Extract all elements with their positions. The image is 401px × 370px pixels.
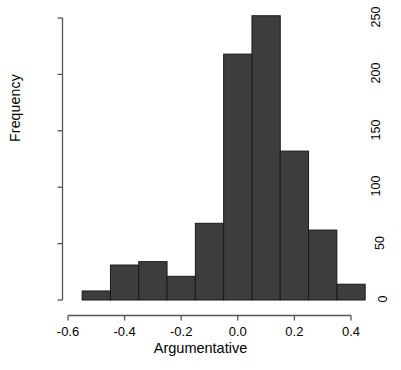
histogram-bar xyxy=(82,291,110,300)
histogram-bar xyxy=(309,230,337,300)
y-tick-label: 200 xyxy=(366,66,387,80)
histogram-bar xyxy=(110,265,138,300)
y-tick-label: 100 xyxy=(366,179,387,193)
y-tick-label: 150 xyxy=(366,123,387,137)
histogram-bar xyxy=(280,151,308,300)
y-tick-label: 50 xyxy=(373,236,387,250)
plot-area xyxy=(0,0,401,370)
histogram-bar xyxy=(195,223,223,300)
x-tick-label: -0.2 xyxy=(170,324,192,339)
histogram-bar xyxy=(337,284,365,300)
x-tick-label: 0.2 xyxy=(285,324,303,339)
histogram-figure: Frequency 050100150200250 -0.6-0.4-0.20.… xyxy=(0,0,401,370)
histogram-bar xyxy=(167,276,195,300)
histogram-bar xyxy=(224,54,252,300)
x-tick-label: 0.4 xyxy=(342,324,360,339)
y-tick-label: 0 xyxy=(380,292,387,306)
bars-group xyxy=(82,16,365,300)
x-tick-label: -0.4 xyxy=(113,324,135,339)
y-tick-label: 250 xyxy=(366,10,387,24)
x-tick-label: 0.0 xyxy=(229,324,247,339)
histogram-bar xyxy=(139,262,167,300)
x-tick-label: -0.6 xyxy=(57,324,79,339)
x-axis-title: Argumentative xyxy=(0,340,401,356)
histogram-bar xyxy=(252,16,280,300)
